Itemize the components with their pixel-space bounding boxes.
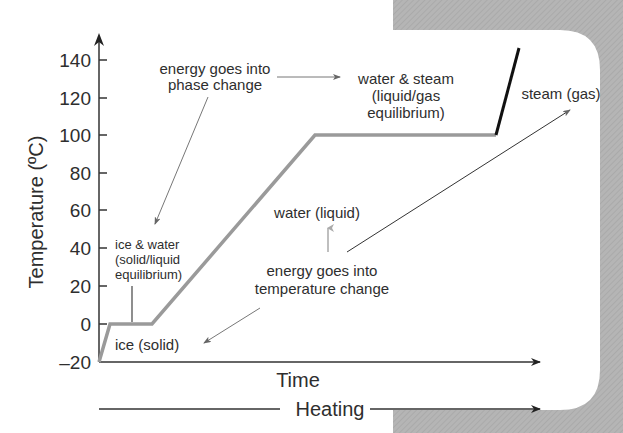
temp-change-label-line2: temperature change [255, 280, 389, 297]
heating-curve-figure: 140 120 100 80 60 40 20 0 –20 Temperatur… [0, 0, 623, 433]
water-steam-label-line3: equilibrium) [367, 104, 445, 121]
temp-change-label-line1: energy goes into [267, 262, 378, 279]
phase-change-label-line1: energy goes into [160, 60, 271, 77]
ice-label: ice (solid) [115, 336, 179, 353]
y-tick-120: 120 [59, 88, 91, 109]
y-tick-0: 0 [80, 314, 91, 335]
y-tick-140: 140 [59, 50, 91, 71]
annotation-arrows [155, 77, 570, 343]
ice-water-label-line2: (solid/liquid [115, 252, 180, 267]
water-steam-label-line2: (liquid/gas [372, 87, 440, 104]
y-tick-100: 100 [59, 125, 91, 146]
y-tick-minus-20: –20 [59, 352, 91, 373]
phase-change-arrow-down [155, 97, 208, 224]
steam-arrow [347, 110, 570, 252]
ice-water-label-line3: equilibrium) [115, 267, 182, 282]
y-tick-60: 60 [70, 200, 91, 221]
ice-water-label-line1: ice & water [115, 237, 180, 252]
phase-change-label-line2: phase change [168, 76, 262, 93]
steam-label: steam (gas) [521, 85, 600, 102]
background-panel [393, 0, 623, 433]
y-axis: 140 120 100 80 60 40 20 0 –20 Temperatur… [25, 33, 107, 373]
y-axis-label: Temperature (ºC) [25, 136, 47, 289]
water-label: water (liquid) [273, 204, 360, 221]
x-axis: Time [99, 362, 540, 391]
y-tick-20: 20 [70, 276, 91, 297]
water-steam-label-line1: water & steam [357, 70, 454, 87]
x-axis-label: Time [276, 369, 320, 391]
y-tick-40: 40 [70, 238, 91, 259]
steam-segment [496, 48, 519, 135]
heating-label: Heating [296, 398, 365, 420]
ice-arrow [204, 308, 260, 343]
y-tick-80: 80 [70, 163, 91, 184]
